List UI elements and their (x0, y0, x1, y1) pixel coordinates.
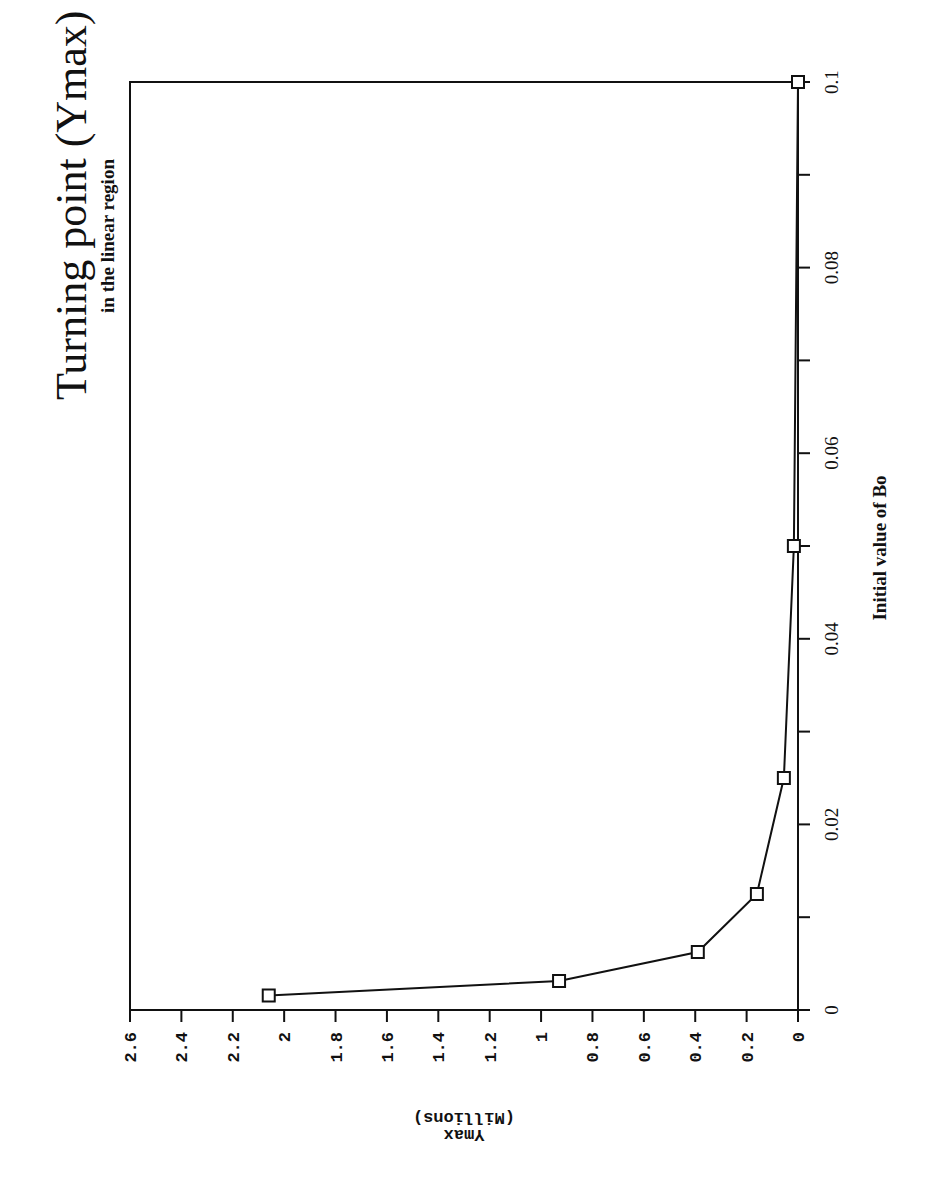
data-point-marker (751, 888, 763, 900)
x-tick-label: 0 (821, 1005, 842, 1015)
data-point-marker (263, 990, 275, 1002)
y-tick-label: 2.6 (122, 1032, 141, 1063)
y-tick-label: 0.8 (584, 1032, 603, 1063)
x-tick-label: 0.06 (821, 437, 842, 470)
y-tick-label: 1.4 (430, 1032, 449, 1063)
x-axis-ticks: 00.020.040.060.080.1 (798, 70, 842, 1015)
data-point-marker (778, 772, 790, 784)
chart: 00.20.40.60.811.21.41.61.822.22.42.6 00.… (0, 0, 929, 1196)
x-tick-label: 0.02 (821, 808, 842, 841)
y-tick-label: 0.6 (636, 1032, 655, 1063)
data-series (263, 76, 804, 1002)
y-tick-label: 0.4 (687, 1032, 706, 1063)
data-point-marker (692, 946, 704, 958)
x-tick-label: 0.1 (821, 70, 842, 94)
y-tick-label: 2 (276, 1032, 295, 1042)
chart-title: Turning point (Ymax) Vs. Bo (47, 0, 96, 400)
plot-frame (130, 82, 798, 1010)
y-tick-label: 2.2 (225, 1032, 244, 1063)
y-tick-label: 0.2 (739, 1032, 758, 1063)
y-axis-units: (Millions) (413, 1108, 515, 1127)
data-point-marker (792, 76, 804, 88)
x-axis-label: Initial value of Bo (869, 475, 890, 620)
x-tick-label: 0.08 (821, 251, 842, 284)
data-point-marker (788, 540, 800, 552)
y-tick-label: 1.2 (482, 1032, 501, 1063)
y-tick-label: 0 (790, 1032, 809, 1042)
y-tick-label: 1.6 (379, 1032, 398, 1063)
series-line (269, 82, 798, 996)
y-tick-label: 1 (533, 1032, 552, 1042)
data-point-marker (553, 975, 565, 987)
y-tick-label: 2.4 (173, 1032, 192, 1063)
x-tick-label: 0.04 (821, 622, 842, 656)
chart-subtitle: in the linear region (97, 159, 118, 313)
y-tick-label: 1.8 (328, 1032, 347, 1063)
y-axis-ticks: 00.20.40.60.811.21.41.61.822.22.42.6 (122, 1010, 809, 1063)
